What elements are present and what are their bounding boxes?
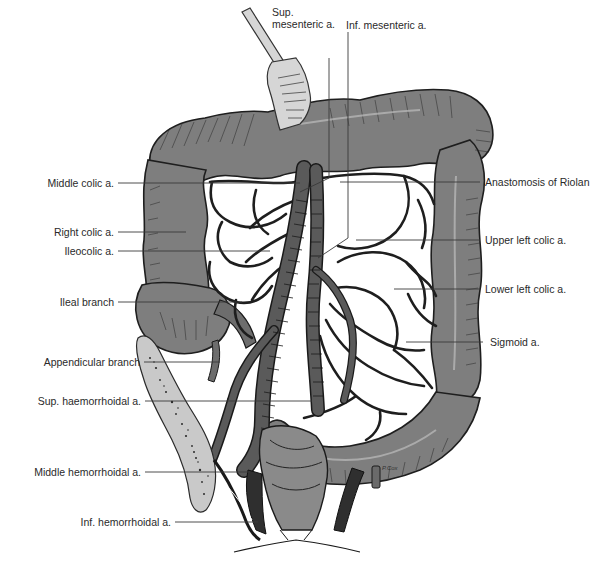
- label-anastomosis-riolan: Anastomosis of Riolan: [485, 176, 589, 188]
- label-right-colic: Right colic a.: [46, 226, 114, 238]
- artist-signature: P.Cox: [382, 465, 399, 471]
- label-inf-mesenteric: Inf. mesenteric a.: [346, 19, 427, 31]
- label-ileocolic: Ileocolic a.: [46, 245, 114, 257]
- label-appendicular-branch: Appendicular branch: [10, 356, 140, 368]
- label-sup-mesenteric: Sup. mesenteric a.: [272, 6, 335, 30]
- label-inf-hemorrhoidal: Inf. hemorrhoidal a.: [40, 516, 171, 528]
- descending-colon: [431, 140, 484, 404]
- label-middle-hemorrhoidal: Middle hemorrhoidal a.: [10, 466, 141, 478]
- label-lower-left-colic: Lower left colic a.: [485, 283, 566, 295]
- label-middle-colic: Middle colic a.: [46, 177, 114, 189]
- label-sup-mesenteric-line1: Sup.: [272, 6, 335, 18]
- label-upper-left-colic: Upper left colic a.: [485, 234, 566, 246]
- label-sup-mesenteric-line2: mesenteric a.: [272, 18, 335, 30]
- label-ileal-branch: Ileal branch: [40, 296, 114, 308]
- label-sup-haemorrhoidal: Sup. haemorrhoidal a.: [10, 395, 141, 407]
- label-sigmoid: Sigmoid a.: [490, 336, 540, 348]
